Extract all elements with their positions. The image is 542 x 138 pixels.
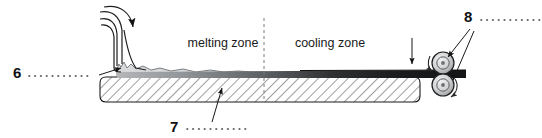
callout-8: 8 [448, 8, 540, 80]
belt-casting-diagram: 6 7 8 melting zone cooling zone [0, 0, 542, 138]
diagram-canvas: 6 7 8 melting zone cooling zone [0, 0, 542, 138]
inlet-flow-arrow [104, 6, 133, 27]
melt-inlet [100, 6, 146, 72]
cooling-zone-label: cooling zone [295, 36, 365, 50]
callout-6-number: 6 [13, 64, 21, 81]
callout-7-number: 7 [170, 118, 178, 135]
callout-8-number: 8 [464, 8, 472, 25]
callout-8-leader-upper [448, 29, 470, 57]
melting-zone-label: melting zone [188, 36, 259, 50]
conveyor-block [100, 77, 420, 102]
cast-sheet [117, 62, 466, 78]
upper-roller [428, 52, 454, 74]
